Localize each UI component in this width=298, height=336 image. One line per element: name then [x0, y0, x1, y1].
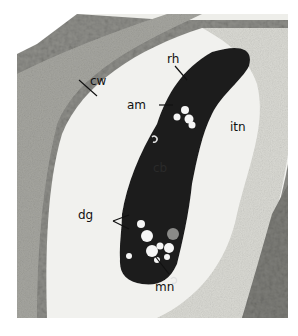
- label-rh: rh: [167, 53, 179, 65]
- label-itn: itn: [230, 121, 246, 133]
- micrograph-image: cw rh am itn cb dg mn: [17, 14, 288, 318]
- label-am: am: [127, 99, 146, 111]
- label-dg: dg: [78, 209, 93, 221]
- label-mn: mn: [155, 281, 174, 293]
- label-cw: cw: [90, 75, 106, 87]
- label-cb: cb: [153, 162, 167, 174]
